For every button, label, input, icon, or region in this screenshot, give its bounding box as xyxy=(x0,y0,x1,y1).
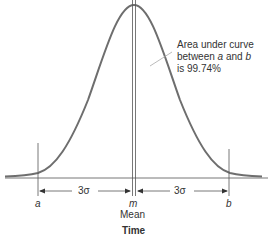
point-m-label: m xyxy=(129,198,137,209)
arrow-right-icon xyxy=(222,189,228,194)
annotation-line3: is 99.74% xyxy=(177,63,221,74)
bell-curve xyxy=(5,5,262,177)
arrow-left-icon xyxy=(137,189,143,194)
point-b-label: b xyxy=(226,198,232,209)
point-a-label: a xyxy=(35,198,41,209)
annotation-line2: between a and b xyxy=(177,51,251,62)
annotation-line1: Area under curve xyxy=(177,39,254,50)
axis-label: Time xyxy=(122,225,145,236)
arrow-left-icon xyxy=(39,189,45,194)
left-span-label: 3σ xyxy=(78,185,90,196)
arrow-right-icon xyxy=(125,189,131,194)
annotation-pointer xyxy=(150,52,172,66)
right-span-label: 3σ xyxy=(174,185,186,196)
mean-label: Mean xyxy=(120,209,145,220)
